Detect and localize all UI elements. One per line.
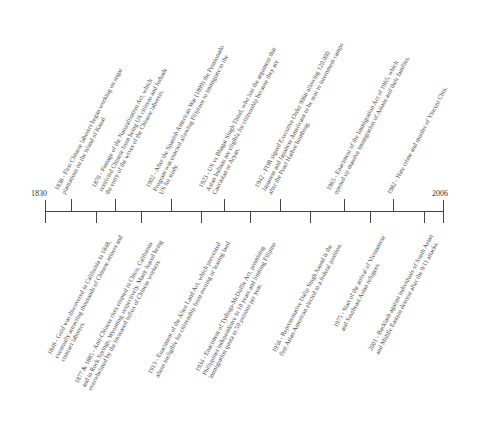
- tick-1838: [71, 199, 72, 211]
- tick-1942: [280, 199, 281, 211]
- tick-1870: [115, 199, 116, 211]
- tick-1975: [370, 211, 371, 223]
- event-1982: 1982 - Hate crime and murder of Vincent …: [385, 85, 449, 195]
- tick-1956: [310, 211, 311, 223]
- tick-1902: [171, 199, 172, 211]
- tick-1877: [141, 211, 142, 223]
- axis-end-cap: [443, 200, 444, 223]
- tick-1848: [96, 211, 97, 223]
- end-year-label: 2006: [432, 189, 448, 198]
- tick-1982: [393, 199, 394, 211]
- start-year-label: 1830: [31, 189, 47, 198]
- tick-2001: [424, 211, 425, 223]
- axis-start-cap: [45, 200, 46, 223]
- tick-1923: [224, 199, 225, 211]
- timeline-axis: [45, 211, 443, 212]
- tick-1965: [344, 199, 345, 211]
- event-1956: 1956 - Representative Dalip Singh Saund …: [271, 238, 344, 357]
- tick-1934: [250, 211, 251, 223]
- tick-1913: [201, 211, 202, 223]
